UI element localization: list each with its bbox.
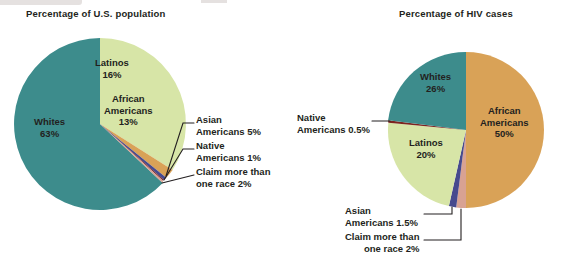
leader-line-asian-right [424,207,452,214]
callout-native-americans-right: Native Americans 0.5% [297,112,370,135]
slice-label-african-americans-right-name1: African [480,105,529,117]
slice-label-latinos-right-value: 20% [409,149,443,161]
callout-asian-americans-left-line2: Americans 5% [196,126,261,138]
slice-label-whites-right-value: 26% [420,83,451,95]
callout-more-than-one-race-left-line1: Claim more than [196,166,270,178]
callout-more-than-one-race-right-line1: Claim more than [345,231,419,243]
chart-title-us-population: Percentage of U.S. population [26,8,165,19]
slice-label-african-americans-left: African Americans 13% [104,93,153,128]
callout-more-than-one-race-left-line2: one race 2% [196,178,270,190]
slice-label-african-americans-right: African Americans 50% [480,105,529,140]
slice-label-latinos-right-name: Latinos [409,137,443,149]
slice-label-african-americans-right-name2: Americans [480,117,529,129]
callout-asian-americans-left-line1: Asian [196,114,261,126]
callout-native-americans-right-line2: Americans 0.5% [297,124,370,136]
slice-label-whites-left-value: 63% [34,128,65,140]
slice-label-whites-left-name: Whites [34,116,65,128]
slice-label-latinos-left: Latinos 16% [95,57,129,80]
callout-native-americans-left-line2: Americans 1% [196,152,261,164]
callout-native-americans-left-line1: Native [196,140,261,152]
figure-canvas: Percentage of U.S. population Percentage… [0,0,568,272]
callout-asian-americans-right: Asian Americans 1.5% [345,205,418,228]
slice-label-latinos-left-name: Latinos [95,57,129,69]
slice-label-whites-right-name: Whites [420,71,451,83]
callout-asian-americans-right-line2: Americans 1.5% [345,217,418,229]
callout-more-than-one-race-right-line2: one race 2% [345,243,419,255]
slice-label-african-americans-left-value: 13% [104,116,153,128]
slice-label-latinos-right: Latinos 20% [409,137,443,160]
chart-title-hiv-cases: Percentage of HIV cases [399,8,513,19]
slice-label-whites-left: Whites 63% [34,116,65,139]
slice-label-whites-right: Whites 26% [420,71,451,94]
slice-label-african-americans-left-name2: Americans [104,105,153,117]
slice-label-latinos-left-value: 16% [95,69,129,81]
callout-more-than-one-race-right: Claim more than one race 2% [345,231,419,254]
slice-label-african-americans-right-value: 50% [480,128,529,140]
callout-native-americans-right-line1: Native [297,112,370,124]
callout-more-than-one-race-left: Claim more than one race 2% [196,166,270,189]
slice-label-african-americans-left-name1: African [104,93,153,105]
callout-asian-americans-right-line1: Asian [345,205,418,217]
callout-native-americans-left: Native Americans 1% [196,140,261,163]
callout-asian-americans-left: Asian Americans 5% [196,114,261,137]
